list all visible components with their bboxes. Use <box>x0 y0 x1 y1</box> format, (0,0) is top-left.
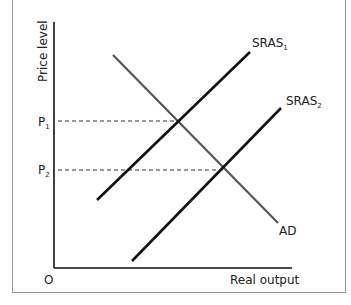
sras2-label: SRAS2 <box>286 94 322 110</box>
sras1-label: SRAS1 <box>252 36 288 52</box>
origin-label: O <box>44 273 53 287</box>
ad-label: AD <box>279 224 296 238</box>
sras-shift-chart: Price level P1 P2 SRAS1 SRAS2 AD O Real … <box>0 0 351 305</box>
ad-curve <box>113 55 278 223</box>
sras1-curve <box>97 52 250 200</box>
p1-label: P1 <box>38 115 50 131</box>
p2-label: P2 <box>38 163 50 179</box>
sras2-curve <box>132 108 281 261</box>
x-axis-label: Real output <box>230 273 300 287</box>
y-axis-label: Price level <box>36 20 50 82</box>
